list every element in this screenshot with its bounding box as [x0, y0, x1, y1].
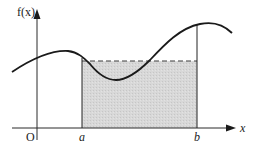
- upper-bound-label: b: [194, 130, 200, 144]
- y-axis-label: f(x): [17, 5, 35, 19]
- shaded-rectangle: [82, 61, 197, 128]
- diagram-canvas: f(x) O a b x: [0, 0, 256, 145]
- origin-label: O: [26, 130, 35, 144]
- x-axis-label: x: [239, 121, 246, 135]
- x-axis-arrow-icon: [226, 125, 236, 132]
- lower-bound-label: a: [79, 130, 85, 144]
